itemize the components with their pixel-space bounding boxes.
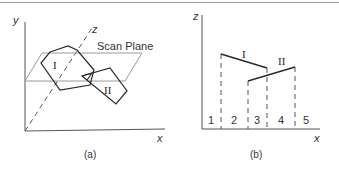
polygon-ii-label: II bbox=[104, 84, 112, 96]
segment-ii-label: II bbox=[278, 55, 286, 67]
x-axis-label: x bbox=[313, 132, 320, 144]
segment-i-label: I bbox=[242, 48, 246, 60]
figure-a: y z x Scan Plane I II (a) bbox=[12, 14, 165, 160]
diagram-canvas: y z x Scan Plane I II (a) z x I II 1 2 3… bbox=[0, 0, 339, 172]
z-axis-label: z bbox=[91, 23, 98, 35]
x-axis-label: x bbox=[156, 132, 163, 144]
interval-label-2: 2 bbox=[231, 114, 237, 126]
y-axis-label: y bbox=[12, 14, 20, 26]
interval-label-3: 3 bbox=[254, 114, 260, 126]
caption-b: (b) bbox=[250, 149, 262, 160]
z-axis-dashed bbox=[25, 28, 92, 131]
interval-label-1: 1 bbox=[208, 114, 214, 126]
x-axis bbox=[25, 129, 165, 131]
z-axis-label: z bbox=[192, 10, 199, 22]
polygon-i-label: I bbox=[53, 59, 57, 71]
figure-b: z x I II 1 2 3 4 5 (b) bbox=[192, 10, 320, 160]
interval-label-5: 5 bbox=[303, 114, 309, 126]
segment-ii bbox=[248, 67, 295, 81]
interval-label-4: 4 bbox=[278, 114, 284, 126]
caption-a: (a) bbox=[84, 149, 96, 160]
scan-plane-label: Scan Plane bbox=[97, 40, 153, 52]
